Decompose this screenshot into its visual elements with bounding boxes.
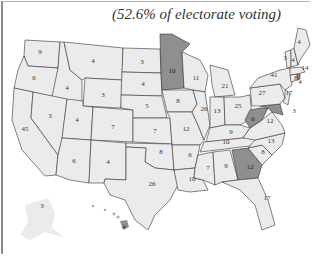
label-SC: 8 bbox=[261, 148, 265, 156]
label-NM: 4 bbox=[106, 158, 110, 166]
label-IN: 13 bbox=[214, 107, 222, 115]
state-WA bbox=[24, 40, 60, 68]
label-PA: 27 bbox=[259, 89, 267, 97]
label-DC: 3 bbox=[292, 107, 296, 115]
label-WY: 3 bbox=[101, 91, 105, 99]
label-MO: 12 bbox=[183, 125, 191, 133]
label-ND: 3 bbox=[140, 58, 144, 66]
label-IA: 8 bbox=[176, 97, 180, 105]
label-ME: 4 bbox=[297, 38, 301, 46]
label-WI: 11 bbox=[193, 74, 200, 82]
label-KS: 7 bbox=[153, 127, 157, 135]
label-HI: 4 bbox=[122, 223, 126, 231]
label-MT: 4 bbox=[91, 57, 95, 65]
label-ID: 4 bbox=[65, 84, 69, 92]
label-AR: 6 bbox=[188, 151, 192, 159]
label-MN: 10 bbox=[169, 67, 177, 75]
label-CA: 45 bbox=[22, 125, 30, 133]
label-NJ: 17 bbox=[286, 89, 294, 97]
label-VT: 3 bbox=[283, 54, 287, 62]
state-FL bbox=[222, 178, 275, 230]
label-MS: 7 bbox=[206, 164, 210, 172]
label-CO: 7 bbox=[111, 123, 115, 131]
label-WV: 6 bbox=[251, 115, 255, 123]
label-RI: 4 bbox=[298, 78, 302, 86]
label-AZ: 6 bbox=[72, 157, 76, 165]
label-SD: 4 bbox=[141, 80, 145, 88]
state-ME bbox=[294, 28, 310, 65]
label-WA: 9 bbox=[38, 48, 42, 56]
label-NE: 5 bbox=[145, 102, 149, 110]
state-WI bbox=[182, 52, 208, 92]
label-MI: 21 bbox=[222, 82, 230, 90]
label-TN: 10 bbox=[223, 138, 231, 146]
label-NC: 13 bbox=[268, 137, 276, 145]
label-VA: 12 bbox=[267, 117, 275, 125]
us-electoral-map: 9 6 45 4 3 4 3 4 6 7 4 3 4 5 7 8 26 10 8… bbox=[0, 0, 312, 256]
label-KY: 9 bbox=[229, 128, 233, 136]
label-LA: 10 bbox=[189, 175, 197, 183]
label-TX: 26 bbox=[149, 180, 157, 188]
label-FL: 17 bbox=[264, 194, 272, 202]
label-GA: 12 bbox=[247, 163, 255, 171]
label-OK: 8 bbox=[159, 148, 163, 156]
label-UT: 4 bbox=[75, 116, 79, 124]
label-OH: 25 bbox=[235, 102, 243, 110]
label-MA: 14 bbox=[302, 64, 310, 72]
label-IL: 26 bbox=[201, 105, 209, 113]
label-NH: 4 bbox=[291, 56, 295, 64]
label-OR: 6 bbox=[32, 74, 36, 82]
label-AK: 3 bbox=[40, 202, 44, 210]
label-NV: 3 bbox=[48, 112, 52, 120]
label-AL: 9 bbox=[224, 162, 228, 170]
state-MI bbox=[210, 65, 235, 97]
label-NY: 41 bbox=[271, 71, 279, 79]
